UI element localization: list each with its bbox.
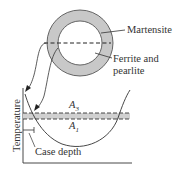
- y-axis-label: Temperature: [11, 99, 22, 152]
- a3-label: A3: [69, 99, 79, 114]
- a3-subscript: 3: [75, 105, 79, 113]
- ferrite-pearlite-label-line2: pearlite: [113, 65, 144, 77]
- a1-label: A1: [69, 120, 79, 135]
- martensite-label: Martensite: [127, 24, 172, 36]
- a1-subscript: 1: [75, 126, 79, 134]
- transformation-band: [23, 113, 130, 119]
- case-depth-leader: [29, 133, 35, 147]
- case-depth-label: Case depth: [35, 146, 81, 158]
- outer-arrow: [28, 43, 46, 89]
- ferrite-pearlite-label-line1: Ferrite and: [113, 53, 159, 65]
- case-hardening-diagram: Martensite Ferrite and pearlite Temperat…: [0, 0, 184, 173]
- ring-cross-section: [44, 10, 113, 76]
